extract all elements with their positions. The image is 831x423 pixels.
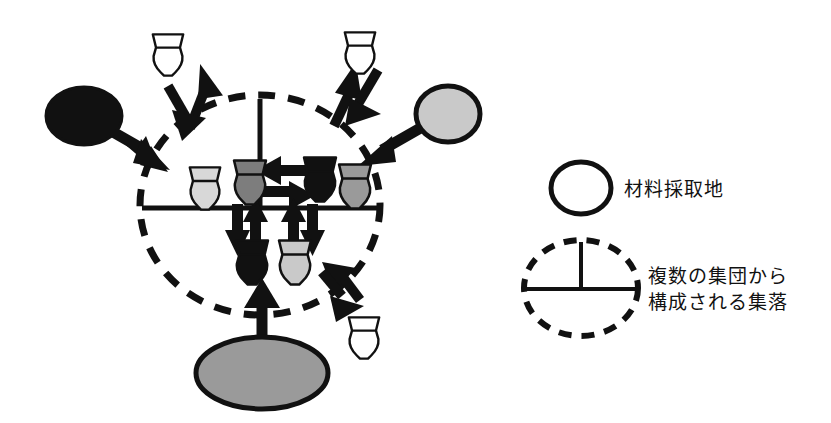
vessel-outer-topleft[interactable] xyxy=(153,34,183,75)
legend-item-settlement: 複数の集団から 構成される集落 xyxy=(523,240,788,336)
legend-source-circle-icon xyxy=(551,162,611,214)
figure-canvas: 材料採取地 複数の集団から 構成される集落 xyxy=(0,0,831,423)
legend-item-source: 材料採取地 xyxy=(551,162,724,214)
legend-settlement-label-line1: 複数の集団から xyxy=(648,265,788,287)
source-site-bottom[interactable] xyxy=(196,278,328,409)
legend-settlement-label-line2: 構成される集落 xyxy=(648,291,788,313)
legend-source-label: 材料採取地 xyxy=(624,178,724,200)
vessel-inner-5[interactable] xyxy=(236,240,268,284)
source-left-ellipse[interactable] xyxy=(46,87,122,145)
vessel-inner-4[interactable] xyxy=(339,164,371,208)
pottery-distribution-diagram: 材料採取地 複数の集団から 構成される集落 xyxy=(0,0,831,423)
source-site-right[interactable] xyxy=(358,86,480,166)
vessel-inner-1[interactable] xyxy=(190,167,220,209)
vessel-outer-bottomright[interactable] xyxy=(349,317,379,358)
vessel-inner-3[interactable] xyxy=(304,157,336,201)
source-right-ellipse[interactable] xyxy=(416,86,480,142)
source-bottom-ellipse[interactable] xyxy=(196,337,328,409)
vessel-inner-2[interactable] xyxy=(234,160,266,204)
vessel-outer-topright[interactable] xyxy=(345,32,375,73)
vessel-inner-6[interactable] xyxy=(279,240,311,284)
source-site-left[interactable] xyxy=(46,87,170,172)
legend: 材料採取地 複数の集団から 構成される集落 xyxy=(523,162,788,336)
